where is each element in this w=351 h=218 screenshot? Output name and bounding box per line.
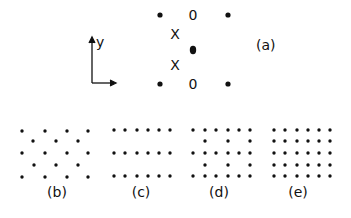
lattice-dot [226,174,229,177]
lattice-dot [225,12,230,17]
lattice-dot [306,128,309,131]
lattice-dot [20,129,23,132]
lattice-dot [76,163,79,166]
lattice-dot [157,128,160,131]
lattice-dot [203,174,206,177]
lattice-dot [146,174,149,177]
lattice-dot [317,163,320,166]
cross-symbol: X [170,26,180,42]
lattice-dot [191,128,194,131]
lattice-dot [248,174,251,177]
lattice-dot [328,139,331,142]
lattice-dot [112,151,115,154]
panel-b-label: (b) [47,184,67,200]
lattice-dot [214,174,217,177]
lattice-dot [123,174,126,177]
cross-symbol: X [170,57,180,73]
lattice-dot [272,151,275,154]
lattice-dot [203,151,206,154]
lattice-dot [226,163,229,166]
lattice-dot [328,151,331,154]
lattice-dot [112,128,115,131]
lattice-dot [306,163,309,166]
lattice-dot [237,128,240,131]
lattice-dot [295,163,298,166]
lattice-dot [191,174,194,177]
axis-label-y: y [96,34,104,50]
lattice-dot [317,151,320,154]
lattice-dot [168,174,171,177]
lattice-dot [317,128,320,131]
panel-d-lattice [191,128,251,177]
lattice-dot [317,174,320,177]
lattice-dot [272,163,275,166]
vacancy-symbol: 0 [189,76,198,92]
lattice-dot [157,12,162,17]
lattice-dot [226,151,229,154]
lattice-dot [135,128,138,131]
lattice-figure: y 0XX0 (a) (b) (c) (d) (e) [0,0,351,218]
lattice-dot [112,174,115,177]
lattice-dot [135,151,138,154]
lattice-dot [203,163,206,166]
lattice-dot [295,139,298,142]
lattice-dot [157,151,160,154]
lattice-dot [328,128,331,131]
lattice-dot [157,81,162,86]
lattice-dot [86,175,89,178]
vacancy-symbol: 0 [189,7,198,23]
lattice-dot [248,163,251,166]
panel-d-label: (d) [209,184,229,200]
lattice-dot [157,174,160,177]
lattice-dot [225,81,230,86]
lattice-dot [295,151,298,154]
lattice-dot [237,174,240,177]
panel-e-label: (e) [288,184,308,200]
panel-b-lattice [20,129,89,178]
lattice-dot [283,128,286,131]
panel-e-lattice [272,128,331,177]
lattice-dot [31,139,34,142]
lattice-dot [191,151,194,154]
lattice-dot [237,151,240,154]
lattice-dot [32,163,35,166]
lattice-dot [43,151,46,154]
lattice-dot [20,175,23,178]
lattice-dot [306,174,309,177]
lattice-dot [283,163,286,166]
lattice-dot [135,174,138,177]
lattice-dot [328,163,331,166]
lattice-dot [214,151,217,154]
lattice-dot [65,175,68,178]
panel-c-lattice [112,128,171,177]
lattice-dot [146,128,149,131]
lattice-dot [86,129,89,132]
lattice-dot [226,128,229,131]
lattice-dot [54,163,57,166]
lattice-dot [272,128,275,131]
lattice-dot [65,129,68,132]
lattice-dot [65,151,68,154]
lattice-dot [328,174,331,177]
lattice-dot [306,151,309,154]
panel-a-symbols: 0XX0 [157,7,230,92]
lattice-dot [306,139,309,142]
lattice-dot [123,128,126,131]
lattice-dot [295,128,298,131]
lattice-dot [203,128,206,131]
lattice-dot [248,139,251,142]
lattice-dot [20,151,23,154]
lattice-dot [43,175,46,178]
lattice-dot [283,139,286,142]
lattice-dot [54,139,57,142]
lattice-dot [168,128,171,131]
lattice-dot [203,139,206,142]
lattice-dot [283,174,286,177]
lattice-dot [168,151,171,154]
lattice-dot [123,151,126,154]
lattice-dot [317,139,320,142]
lattice-dot [226,139,229,142]
lattice-dot [248,128,251,131]
lattice-dot [146,151,149,154]
panel-a-label: (a) [256,37,276,53]
